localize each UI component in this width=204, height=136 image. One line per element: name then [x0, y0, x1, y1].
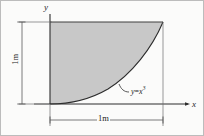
- shaded-region: [50, 22, 163, 104]
- figure-canvas: y x 1m 1m y=x3: [0, 0, 204, 136]
- curve-equation-label: y=x3: [131, 86, 145, 96]
- x-axis-label: x: [192, 100, 196, 109]
- equation-leader-line: [119, 84, 129, 92]
- y-axis-label: y: [44, 3, 48, 12]
- x-axis-arrowhead: [185, 102, 190, 106]
- equation-exponent: 3: [143, 85, 146, 91]
- vertical-dimension-label: 1m: [11, 53, 20, 66]
- horizontal-dimension-label: 1m: [97, 114, 110, 123]
